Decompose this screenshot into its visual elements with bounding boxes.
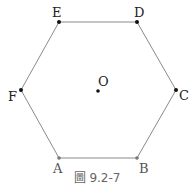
vertex-A-point: [57, 156, 61, 160]
vertex-E-point: [57, 20, 61, 24]
label-O: O: [98, 74, 109, 89]
vertex-F-point: [19, 88, 23, 92]
hexagon-diagram: A B C D E F O: [0, 0, 194, 196]
vertex-C-point: [174, 88, 178, 92]
center-O-point: [96, 89, 100, 93]
figure-caption: 圖 9.2-7: [0, 168, 194, 185]
vertex-B-point: [135, 156, 139, 160]
vertex-D-point: [135, 20, 139, 24]
label-F: F: [8, 89, 17, 104]
label-D: D: [134, 5, 144, 20]
label-E: E: [52, 5, 62, 20]
label-C: C: [179, 88, 189, 103]
